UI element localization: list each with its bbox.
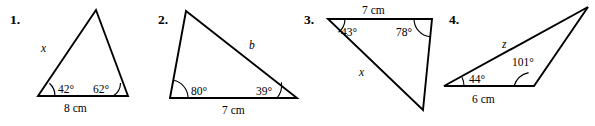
figure-2: 2. 80° 39° b 7 cm <box>150 0 300 126</box>
figure-number-2: 2. <box>158 12 168 27</box>
base-length-label-4: 6 cm <box>472 93 495 105</box>
side-variable-label-4: z <box>501 38 507 50</box>
worksheet-sheet: 1. 42° 62° x 8 cm 2. 80° 39° b 7 cm 3. <box>0 0 595 126</box>
figure-1: 1. 42° 62° x 8 cm <box>0 0 150 126</box>
angle-label-left-1: 42° <box>58 83 75 95</box>
angle-label-left-4: 44° <box>469 73 486 85</box>
angle-arc-right-3 <box>414 19 430 37</box>
triangle-outline-1 <box>38 10 128 96</box>
side-variable-label-3: x <box>358 66 365 78</box>
angle-label-right-4: 101° <box>512 56 534 68</box>
angle-label-left-3: 43° <box>341 26 358 38</box>
angle-label-right-3: 78° <box>396 26 413 38</box>
figure-number-4: 4. <box>449 12 459 27</box>
angle-arc-left-2 <box>173 80 188 98</box>
figure-4: 4. 44° 101° z 6 cm <box>440 0 595 126</box>
angle-arc-left-1 <box>49 83 55 96</box>
angle-arc-right-1 <box>113 83 121 96</box>
triangle-outline-4 <box>444 7 588 86</box>
angle-label-left-2: 80° <box>191 85 208 97</box>
figure-number-3: 3. <box>304 12 314 27</box>
angle-arc-right-4 <box>514 73 529 86</box>
base-length-label-2: 7 cm <box>222 104 245 116</box>
base-length-label-1: 8 cm <box>64 102 87 114</box>
figure-3: 3. 43° 78° x 7 cm <box>300 0 440 126</box>
top-length-label-3: 7 cm <box>362 4 385 16</box>
angle-label-right-2: 39° <box>256 85 273 97</box>
triangle-outline-2 <box>170 11 297 98</box>
angle-arc-left-4 <box>462 77 464 86</box>
side-variable-label-2: b <box>249 39 255 51</box>
side-variable-label-1: x <box>40 42 47 54</box>
figure-number-1: 1. <box>10 12 20 27</box>
angle-label-right-1: 62° <box>93 83 110 95</box>
